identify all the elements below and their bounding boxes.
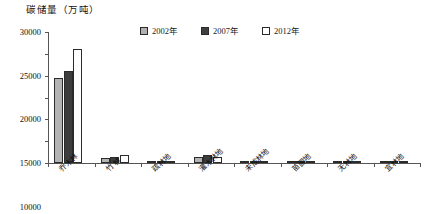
y-tick-mark: 30000 [45, 32, 49, 33]
x-tick-mark [420, 163, 421, 167]
y-tick-mark: 20000 [45, 76, 49, 77]
y-tick-label: 10000 [20, 202, 41, 212]
y-tick-mark: 5000 [45, 141, 49, 142]
x-axis-labels: 乔木林竹 林疏林地灌木林地未成林地苗圃地无林地宜林地 [48, 166, 420, 212]
y-tick-mark: 15000 [45, 98, 49, 99]
chart-title: 碳储量（万吨） [26, 2, 100, 16]
y-tick-label: 20000 [20, 114, 41, 124]
bar-chart: 碳储量（万吨） 2002年2007年2012年 3000025000200001… [0, 0, 427, 214]
y-tick-label: 30000 [20, 27, 41, 37]
y-tick-mark: 10000 [45, 119, 49, 120]
y-tick-label: 25000 [20, 71, 41, 81]
bar-2002年-乔木林[interactable] [54, 78, 63, 163]
y-tick-label: 15000 [20, 158, 41, 168]
bar-2012年-乔木林[interactable] [73, 49, 82, 163]
y-tick-mark: 25000 [45, 54, 49, 55]
plot-area: 300002500020000150001000050000 [48, 32, 420, 163]
